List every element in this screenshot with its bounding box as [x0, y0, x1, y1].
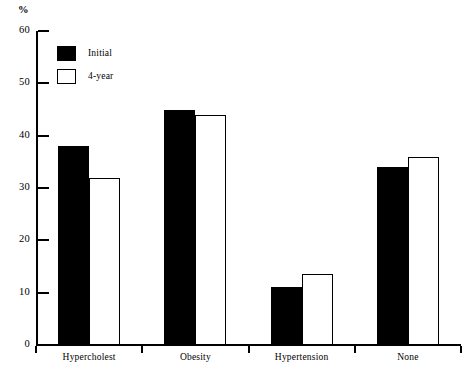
y-axis-tick-label: 30 — [4, 182, 30, 192]
y-axis-tick — [38, 187, 49, 189]
x-axis-label-hypercholest: Hypercholest — [63, 352, 116, 363]
y-axis-tick-label: 60 — [4, 25, 30, 35]
legend-item-label: Initial — [88, 48, 112, 59]
bar-hypertension-initial — [271, 287, 302, 345]
y-axis-tick-label: 20 — [4, 234, 30, 244]
x-axis-tick — [35, 346, 37, 353]
bar-none-4-year — [408, 157, 439, 345]
bar-obesity-initial — [164, 110, 195, 346]
y-axis-tick — [38, 135, 49, 137]
bar-chart: % 0102030405060 HypercholestObesityHyper… — [0, 0, 475, 367]
y-axis-tick — [38, 344, 49, 346]
x-axis-tick — [248, 346, 250, 353]
y-axis-tick-label: 0 — [4, 339, 30, 349]
x-axis-tick — [460, 346, 462, 353]
y-axis-tick — [38, 82, 49, 84]
bar-hypercholest-4-year — [89, 178, 120, 345]
legend-item-initial: Initial — [57, 42, 113, 65]
y-axis-tick — [38, 292, 49, 294]
y-axis-tick-label: 40 — [4, 130, 30, 140]
bar-none-initial — [377, 167, 408, 345]
x-axis-tick — [141, 346, 143, 353]
y-axis-tick-label: 50 — [4, 77, 30, 87]
legend-item-label: 4-year — [88, 71, 113, 82]
legend-swatch-icon — [57, 46, 76, 61]
legend-item-4-year: 4-year — [57, 65, 113, 88]
y-axis-tick — [38, 239, 49, 241]
chart-legend: Initial4-year — [57, 42, 113, 88]
bar-hypercholest-initial — [58, 146, 89, 345]
legend-swatch-icon — [57, 69, 76, 84]
x-axis-label-obesity: Obesity — [180, 352, 211, 363]
x-axis-label-hypertension: Hypertension — [275, 352, 329, 363]
y-axis-tick-label: 10 — [4, 287, 30, 297]
y-axis-tick — [38, 30, 49, 32]
x-axis-tick — [354, 346, 356, 353]
y-axis-title: % — [18, 4, 29, 15]
x-axis-label-none: None — [397, 352, 418, 363]
bar-obesity-4-year — [195, 115, 226, 345]
bar-hypertension-4-year — [302, 274, 333, 345]
